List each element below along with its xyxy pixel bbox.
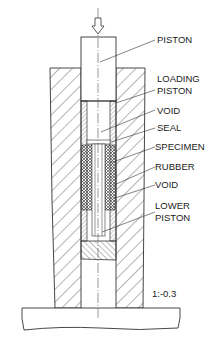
label-void-lower: VOID [155,179,178,190]
label-scale: 1:-0.3 [152,288,176,299]
label-void-upper: VOID [157,105,180,116]
seal [87,140,110,144]
label-lower-piston-1: LOWER [155,200,190,211]
base-plate [22,308,181,330]
label-loading-piston-1: LOADING [157,73,200,84]
triaxial-cell-diagram: PISTON LOADING PISTON VOID SEAL SPECIMEN… [0,0,211,345]
lower-piston [81,241,116,260]
label-piston: PISTON [157,34,192,45]
label-lower-piston-2: PISTON [155,212,190,223]
label-loading-piston-2: PISTON [157,85,192,96]
label-seal: SEAL [157,122,181,133]
specimen [92,144,105,236]
label-specimen: SPECIMEN [155,141,205,152]
down-arrow-icon [92,18,104,34]
upper-piston [81,37,116,101]
label-rubber: RUBBER [155,161,195,172]
